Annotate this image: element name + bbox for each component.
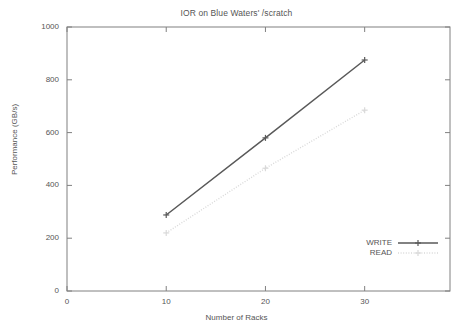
legend-label-read: READ bbox=[332, 248, 392, 257]
y-tick-label: 800 bbox=[19, 75, 59, 84]
series-line bbox=[166, 110, 364, 233]
x-tick-label: 0 bbox=[47, 297, 87, 306]
legend-swatch-read bbox=[398, 250, 438, 256]
legend-swatch-write bbox=[398, 240, 438, 246]
y-tick-label: 600 bbox=[19, 128, 59, 137]
plot-frame bbox=[67, 27, 450, 291]
y-tick-label: 0 bbox=[19, 286, 59, 295]
x-tick-label: 30 bbox=[345, 297, 385, 306]
y-tick-label: 200 bbox=[19, 233, 59, 242]
x-tick-label: 20 bbox=[245, 297, 285, 306]
chart-container: IOR on Blue Waters' /scratch Performance… bbox=[0, 0, 473, 333]
x-tick-label: 10 bbox=[146, 297, 186, 306]
y-tick-label: 1000 bbox=[19, 22, 59, 31]
series-write bbox=[163, 57, 367, 218]
y-tick-label: 400 bbox=[19, 180, 59, 189]
plot-area bbox=[0, 0, 473, 333]
legend-label-write: WRITE bbox=[332, 238, 392, 247]
series-read bbox=[163, 107, 367, 236]
